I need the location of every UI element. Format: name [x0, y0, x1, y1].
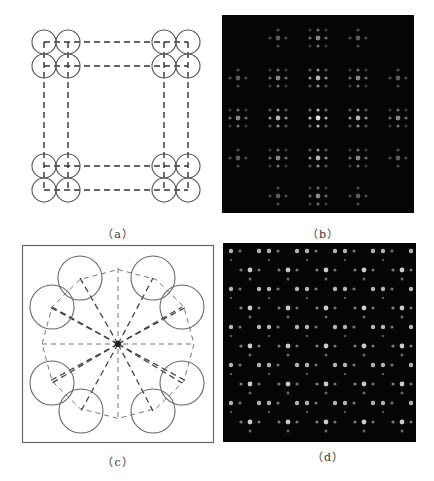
caption-d: （d） [298, 448, 358, 464]
caption-b: （b） [293, 225, 353, 241]
panel-d-diffraction [223, 243, 416, 442]
panel-c-schematic [0, 240, 217, 450]
ring-lattice-diagram [0, 240, 217, 450]
square-lattice-diagram [0, 0, 217, 220]
panel-b-diffraction [222, 15, 414, 213]
caption-c: （c） [88, 453, 148, 469]
panel-a-schematic [0, 0, 217, 220]
caption-a: （a） [88, 225, 148, 241]
diffraction-pattern-b [222, 15, 414, 213]
diffraction-pattern-d [223, 243, 416, 442]
